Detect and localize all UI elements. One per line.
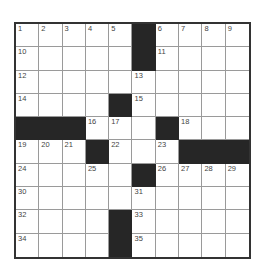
grid-cell[interactable]: 18: [179, 117, 202, 140]
grid-cell[interactable]: [156, 210, 179, 233]
black-square: [132, 47, 155, 70]
grid-cell[interactable]: 28: [202, 164, 225, 187]
grid-cell[interactable]: [226, 94, 249, 117]
grid-cell[interactable]: 17: [109, 117, 132, 140]
grid-cell[interactable]: [63, 234, 86, 257]
grid-cell[interactable]: [86, 210, 109, 233]
grid-cell[interactable]: [39, 47, 62, 70]
grid-cell[interactable]: 10: [16, 47, 39, 70]
grid-cell[interactable]: 24: [16, 164, 39, 187]
grid-cell[interactable]: 13: [132, 71, 155, 94]
grid-cell[interactable]: 3: [63, 24, 86, 47]
grid-cell[interactable]: [109, 164, 132, 187]
grid-cell[interactable]: 29: [226, 164, 249, 187]
clue-number: 5: [111, 25, 115, 33]
grid-cell[interactable]: 25: [86, 164, 109, 187]
grid-cell[interactable]: 2: [39, 24, 62, 47]
grid-cell[interactable]: [202, 47, 225, 70]
grid-cell[interactable]: [63, 94, 86, 117]
grid-cell[interactable]: 22: [109, 140, 132, 163]
grid-cell[interactable]: [156, 94, 179, 117]
grid-cell[interactable]: 26: [156, 164, 179, 187]
black-square: [179, 140, 202, 163]
grid-cell[interactable]: [179, 94, 202, 117]
clue-number: 29: [228, 165, 236, 173]
black-square: [16, 117, 39, 140]
grid-cell[interactable]: 21: [63, 140, 86, 163]
grid-cell[interactable]: 27: [179, 164, 202, 187]
clue-number: 32: [18, 211, 26, 219]
clue-number: 25: [88, 165, 96, 173]
clue-number: 3: [65, 25, 69, 33]
grid-cell[interactable]: 32: [16, 210, 39, 233]
grid-cell[interactable]: [226, 47, 249, 70]
grid-cell[interactable]: 6: [156, 24, 179, 47]
grid-cell[interactable]: [202, 210, 225, 233]
grid-cell[interactable]: [202, 234, 225, 257]
grid-cell[interactable]: [156, 187, 179, 210]
grid-cell[interactable]: [179, 210, 202, 233]
grid-cell[interactable]: 15: [132, 94, 155, 117]
grid-cell[interactable]: 5: [109, 24, 132, 47]
grid-cell[interactable]: 31: [132, 187, 155, 210]
grid-cell[interactable]: [226, 117, 249, 140]
grid-cell[interactable]: 12: [16, 71, 39, 94]
grid-cell[interactable]: [39, 234, 62, 257]
grid-cell[interactable]: [86, 94, 109, 117]
grid-cell[interactable]: 23: [156, 140, 179, 163]
grid-cell[interactable]: [202, 117, 225, 140]
grid-cell[interactable]: [226, 210, 249, 233]
grid-cell[interactable]: 16: [86, 117, 109, 140]
grid-cell[interactable]: 19: [16, 140, 39, 163]
grid-cell[interactable]: [39, 187, 62, 210]
grid-cell[interactable]: [39, 71, 62, 94]
grid-cell[interactable]: [63, 187, 86, 210]
grid-cell[interactable]: [39, 94, 62, 117]
grid-cell[interactable]: [63, 164, 86, 187]
grid-cell[interactable]: [226, 234, 249, 257]
grid-cell[interactable]: [226, 187, 249, 210]
grid-cell[interactable]: [39, 210, 62, 233]
grid-cell[interactable]: 30: [16, 187, 39, 210]
grid-cell[interactable]: 11: [156, 47, 179, 70]
grid-cell[interactable]: [179, 71, 202, 94]
grid-cell[interactable]: [132, 117, 155, 140]
clue-number: 9: [228, 25, 232, 33]
grid-cell[interactable]: [109, 187, 132, 210]
grid-cell[interactable]: 33: [132, 210, 155, 233]
grid-cell[interactable]: [202, 187, 225, 210]
clue-number: 26: [158, 165, 166, 173]
grid-cell[interactable]: [156, 71, 179, 94]
grid-cell[interactable]: 8: [202, 24, 225, 47]
grid-cell[interactable]: 20: [39, 140, 62, 163]
grid-cell[interactable]: [86, 187, 109, 210]
grid-cell[interactable]: [226, 71, 249, 94]
grid-cell[interactable]: [63, 47, 86, 70]
grid-cell[interactable]: [202, 94, 225, 117]
grid-cell[interactable]: 4: [86, 24, 109, 47]
grid-cell[interactable]: [109, 47, 132, 70]
grid-cell[interactable]: [156, 234, 179, 257]
clue-number: 14: [18, 95, 26, 103]
grid-cell[interactable]: [179, 187, 202, 210]
grid-cell[interactable]: 34: [16, 234, 39, 257]
grid-cell[interactable]: [86, 71, 109, 94]
grid-cell[interactable]: [39, 164, 62, 187]
grid-cell[interactable]: [109, 71, 132, 94]
grid-cell[interactable]: 1: [16, 24, 39, 47]
grid-cell[interactable]: 9: [226, 24, 249, 47]
grid-cell[interactable]: 35: [132, 234, 155, 257]
grid-cell[interactable]: [63, 71, 86, 94]
grid-cell[interactable]: [202, 71, 225, 94]
clue-number: 22: [111, 141, 119, 149]
grid-cell[interactable]: [86, 234, 109, 257]
grid-cell[interactable]: 7: [179, 24, 202, 47]
grid-cell[interactable]: 14: [16, 94, 39, 117]
grid-cell[interactable]: [63, 210, 86, 233]
grid-cell[interactable]: [179, 47, 202, 70]
black-square: [86, 140, 109, 163]
grid-cell[interactable]: [86, 47, 109, 70]
grid-cell[interactable]: [132, 140, 155, 163]
grid-cell[interactable]: [179, 234, 202, 257]
black-square: [132, 164, 155, 187]
